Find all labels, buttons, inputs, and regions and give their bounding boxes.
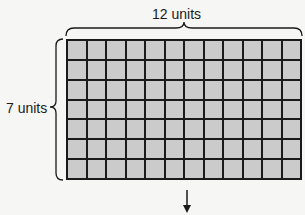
grid-cell bbox=[244, 61, 262, 79]
grid-cell bbox=[127, 41, 145, 59]
grid-cell bbox=[146, 61, 164, 79]
grid-cell bbox=[107, 81, 125, 99]
grid-cell bbox=[68, 140, 86, 158]
grid-cell bbox=[224, 120, 242, 138]
side-brace-icon bbox=[50, 39, 63, 180]
grid-cell bbox=[166, 81, 184, 99]
grid-cell bbox=[185, 81, 203, 99]
grid-cell bbox=[205, 140, 223, 158]
grid-cell bbox=[244, 81, 262, 99]
grid-cell bbox=[166, 120, 184, 138]
grid-cell bbox=[88, 160, 106, 178]
grid-cell bbox=[263, 140, 281, 158]
grid-cell bbox=[263, 41, 281, 59]
grid-cell bbox=[244, 120, 262, 138]
grid-cell bbox=[263, 101, 281, 119]
grid-cell bbox=[263, 160, 281, 178]
top-brace-icon bbox=[66, 22, 302, 36]
grid-cell bbox=[244, 160, 262, 178]
grid-cell bbox=[166, 61, 184, 79]
grid-cell bbox=[166, 101, 184, 119]
grid-cell bbox=[127, 120, 145, 138]
grid-cell bbox=[185, 101, 203, 119]
grid-cell bbox=[185, 61, 203, 79]
grid-cell bbox=[88, 101, 106, 119]
grid-cell bbox=[263, 61, 281, 79]
grid-cell bbox=[68, 160, 86, 178]
grid-cell bbox=[146, 81, 164, 99]
grid-cell bbox=[224, 101, 242, 119]
grid-cell bbox=[205, 160, 223, 178]
grid-cell bbox=[127, 61, 145, 79]
grid-cell bbox=[88, 61, 106, 79]
grid-cell bbox=[283, 140, 301, 158]
grid-cell bbox=[146, 101, 164, 119]
grid-cell bbox=[224, 140, 242, 158]
grid-cell bbox=[185, 140, 203, 158]
grid-cell bbox=[244, 140, 262, 158]
grid-cell bbox=[88, 41, 106, 59]
grid-cell bbox=[68, 81, 86, 99]
grid-cell bbox=[185, 160, 203, 178]
grid-cell bbox=[185, 41, 203, 59]
grid-cell bbox=[68, 101, 86, 119]
grid-cell bbox=[224, 160, 242, 178]
grid-cell bbox=[205, 120, 223, 138]
area-model-diagram: 12 units 7 units bbox=[0, 0, 305, 215]
grid-cell bbox=[146, 41, 164, 59]
down-arrow-icon bbox=[183, 190, 191, 213]
grid-cell bbox=[205, 41, 223, 59]
grid-cell bbox=[68, 120, 86, 138]
grid-cell bbox=[283, 101, 301, 119]
grid-cell bbox=[205, 61, 223, 79]
grid-cell bbox=[107, 61, 125, 79]
grid-cell bbox=[224, 61, 242, 79]
grid-cell bbox=[127, 140, 145, 158]
grid-cell bbox=[127, 81, 145, 99]
grid-cell bbox=[166, 160, 184, 178]
grid-cell bbox=[88, 120, 106, 138]
grid-cell bbox=[88, 140, 106, 158]
grid-cell bbox=[88, 81, 106, 99]
grid-cell bbox=[283, 61, 301, 79]
grid-cell bbox=[205, 101, 223, 119]
grid-cell bbox=[263, 120, 281, 138]
grid-cell bbox=[244, 101, 262, 119]
grid-cell bbox=[185, 120, 203, 138]
grid-cell bbox=[127, 160, 145, 178]
grid-cell bbox=[224, 41, 242, 59]
grid-cell bbox=[146, 120, 164, 138]
grid-cell bbox=[283, 120, 301, 138]
grid-cell bbox=[263, 81, 281, 99]
grid-cell bbox=[166, 140, 184, 158]
grid-cell bbox=[283, 41, 301, 59]
grid-cell bbox=[166, 41, 184, 59]
grid-cell bbox=[107, 120, 125, 138]
grid-cell bbox=[107, 101, 125, 119]
grid-cell bbox=[107, 140, 125, 158]
grid-cell bbox=[68, 61, 86, 79]
grid-cell bbox=[107, 160, 125, 178]
grid-cell bbox=[283, 160, 301, 178]
grid-cell bbox=[224, 81, 242, 99]
grid-cell bbox=[244, 41, 262, 59]
grid-cell bbox=[127, 101, 145, 119]
grid-cell bbox=[146, 160, 164, 178]
grid-cell bbox=[283, 81, 301, 99]
grid-cell bbox=[107, 41, 125, 59]
grid-cell bbox=[205, 81, 223, 99]
grid-cell bbox=[146, 140, 164, 158]
unit-grid bbox=[66, 39, 302, 180]
grid-cell bbox=[68, 41, 86, 59]
